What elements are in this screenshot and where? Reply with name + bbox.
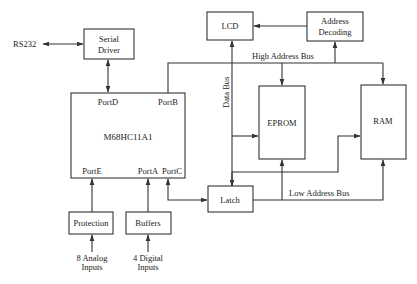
latch-block: Latch [208, 186, 253, 212]
porte-label: PortE [82, 166, 101, 176]
lcd-label: LCD [222, 21, 239, 31]
high-address-bus-label: High Address Bus [252, 51, 314, 61]
eprom-block: EPROM [259, 86, 305, 159]
protection-label: Protection [74, 218, 110, 228]
mcu-block: PortD PortB M68HC11A1 PortE PortA PortC [71, 93, 185, 178]
protection-block: Protection [69, 212, 113, 234]
mcu-label: M68HC11A1 [103, 132, 152, 142]
rs232-label: RS232 [13, 39, 36, 49]
ram-block: RAM [361, 85, 406, 159]
portc-label: PortC [162, 166, 182, 176]
buffers-block: Buffers [126, 212, 171, 234]
block-diagram: RS232 Serial Driver PortD PortB M68HC11A… [0, 0, 417, 284]
latch-label: Latch [220, 195, 240, 205]
address-decoding-label-1: Address [321, 16, 349, 26]
low-address-bus-label: Low Address Bus [289, 188, 349, 198]
analog-inputs-label-2: Inputs [81, 262, 102, 272]
lcd-block: LCD [207, 12, 253, 40]
porta-label: PortA [138, 166, 159, 176]
address-decoding-label-2: Decoding [318, 27, 352, 37]
buffers-label: Buffers [135, 218, 160, 228]
portd-label: PortD [98, 97, 118, 107]
ram-label: RAM [373, 116, 393, 126]
address-decoding-block: Address Decoding [307, 12, 363, 41]
portc-to-latch [168, 179, 207, 200]
serial-driver-block: Serial Driver [84, 29, 134, 59]
eprom-label: EPROM [267, 118, 297, 128]
digital-inputs-label-2: Inputs [137, 262, 158, 272]
serial-driver-label-2: Driver [98, 45, 120, 55]
data-bus-label: Data Bus [221, 77, 231, 108]
portb-label: PortB [158, 97, 178, 107]
serial-driver-label-1: Serial [99, 34, 119, 44]
